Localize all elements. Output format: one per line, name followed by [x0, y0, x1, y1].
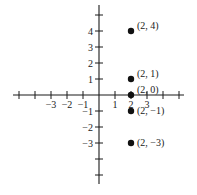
- coordinate-plane: −3−2−1123 4321−1−2−3 (2, 4)(2, 1)(2, 0)(…: [0, 0, 197, 195]
- data-point: [128, 76, 134, 82]
- y-axis-tick-labels: 4321−1−2−3: [82, 26, 93, 149]
- data-point-label: (2, 1): [137, 68, 159, 80]
- data-point: [128, 92, 134, 98]
- data-point-label: (2, 0): [137, 84, 159, 96]
- data-point-labels: (2, 4)(2, 1)(2, 0)(2, −1)(2, −3): [137, 20, 164, 149]
- data-point: [128, 28, 134, 34]
- x-axis-tick-labels: −3−2−1123: [46, 99, 150, 110]
- y-tick-label: 2: [88, 58, 93, 69]
- y-tick-label: −1: [82, 106, 93, 117]
- data-point-label: (2, −3): [137, 137, 164, 149]
- y-tick-label: −3: [82, 138, 93, 149]
- y-tick-label: −2: [82, 122, 93, 133]
- y-tick-label: 4: [88, 26, 93, 37]
- data-point-label: (2, 4): [137, 20, 159, 32]
- data-point-label: (2, −1): [137, 105, 164, 117]
- y-tick-label: 1: [88, 74, 93, 85]
- y-tick-label: 3: [88, 42, 93, 53]
- data-point: [128, 140, 134, 146]
- x-tick-label: −2: [62, 99, 73, 110]
- x-tick-label: −3: [46, 99, 57, 110]
- x-tick-label: 1: [113, 99, 118, 110]
- data-points: [128, 28, 134, 146]
- data-point: [128, 108, 134, 114]
